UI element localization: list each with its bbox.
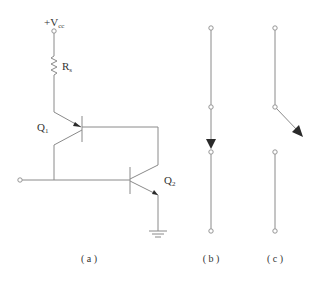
wire [82,127,158,165]
vcc-terminal-icon [52,29,56,33]
terminal-icon [273,229,277,233]
q2-transistor-icon [130,165,158,195]
terminal-icon [273,150,277,154]
q1-label: Q1 [37,121,49,135]
circuit-diagram: +Vcc Rs Q1 Q2 [0,0,324,283]
resistor-icon [51,56,57,75]
terminal-icon [209,105,213,109]
vcc-label: +Vcc [44,16,64,30]
terminal-icon [209,229,213,233]
panel-b: ( b ) [203,26,220,265]
terminal-icon [273,26,277,30]
terminal-icon [209,26,213,30]
arrow-down-icon [206,139,216,149]
terminal-icon [209,150,213,154]
panel-c: ( c ) [267,26,303,265]
caption-b: ( b ) [203,253,220,265]
q2-label: Q2 [164,174,176,188]
caption-a: ( a ) [81,253,97,265]
ground-icon [149,231,167,237]
q1-transistor-icon [54,112,82,145]
panel-a: +Vcc Rs Q1 Q2 [18,16,176,265]
resistor-label: Rs [62,60,72,74]
input-terminal-icon [18,178,22,182]
caption-c: ( c ) [267,253,283,265]
